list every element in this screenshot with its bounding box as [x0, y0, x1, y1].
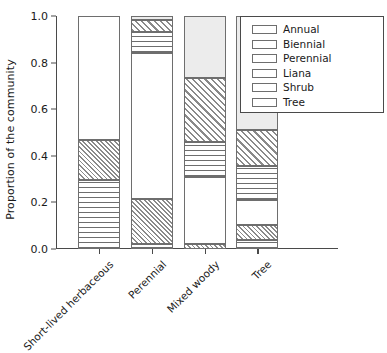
legend-item-tree[interactable]: Tree	[252, 97, 305, 108]
y-tick-label: 1.0	[31, 10, 52, 23]
segment-shrub	[236, 130, 278, 166]
x-tick-mark	[257, 249, 258, 254]
legend-label-liana: Liana	[283, 68, 311, 79]
legend-label-biennial: Biennial	[283, 39, 325, 50]
legend-swatch-annual	[252, 25, 277, 34]
stacked-bar-chart: Proportion of the community 0.00.20.40.6…	[0, 0, 387, 353]
x-tick-mark	[152, 249, 153, 254]
y-tick-0.4: 0.4	[31, 149, 57, 162]
legend-item-annual[interactable]: Annual	[252, 24, 320, 35]
bar-perennial	[131, 16, 173, 249]
legend-item-perennial[interactable]: Perennial	[252, 53, 332, 64]
legend-item-liana[interactable]: Liana	[252, 68, 311, 79]
segment-annual	[236, 240, 278, 249]
segment-shrub	[131, 20, 173, 33]
bar-short-lived-herbaceous	[78, 16, 120, 249]
legend-label-tree: Tree	[283, 97, 305, 108]
legend-label-annual: Annual	[283, 24, 320, 35]
y-axis-title: Proportion of the community	[4, 34, 17, 244]
legend-swatch-perennial	[252, 54, 277, 63]
segment-perennial	[236, 200, 278, 224]
legend-swatch-tree	[252, 98, 277, 107]
legend-item-shrub[interactable]: Shrub	[252, 82, 314, 93]
y-tick-label: 0.8	[31, 56, 52, 69]
segment-perennial	[131, 53, 173, 199]
y-tick-label: 0.4	[31, 149, 52, 162]
y-tick-0.6: 0.6	[31, 103, 57, 116]
y-tick-label: 0.2	[31, 196, 52, 209]
y-tick-0.0: 0.0	[31, 243, 57, 256]
segment-perennial	[184, 177, 226, 245]
legend-label-perennial: Perennial	[283, 53, 332, 64]
y-tick-label: 0.0	[31, 243, 52, 256]
legend-swatch-liana	[252, 69, 277, 78]
segment-perennial	[78, 16, 120, 139]
x-axis-label-tree: Tree	[250, 258, 274, 282]
legend-swatch-shrub	[252, 83, 277, 92]
bar-mixed-woody	[184, 16, 226, 249]
y-tick-0.2: 0.2	[31, 196, 57, 209]
segment-tree	[131, 16, 173, 19]
segment-biennial	[131, 199, 173, 244]
x-tick-mark	[99, 249, 100, 254]
y-tick-0.8: 0.8	[31, 56, 57, 69]
x-axis-label-short-lived-herbaceous: Short-lived herbaceous	[21, 258, 116, 353]
segment-shrub	[184, 78, 226, 142]
x-tick-mark	[205, 249, 206, 254]
segment-liana	[131, 32, 173, 53]
segment-biennial	[236, 225, 278, 240]
y-tick-label: 0.6	[31, 103, 52, 116]
segment-tree	[184, 16, 226, 78]
segment-annual	[78, 180, 120, 249]
segment-liana	[184, 142, 226, 177]
legend-swatch-biennial	[252, 40, 277, 49]
y-tick-1.0: 1.0	[31, 10, 57, 23]
x-axis-label-mixed-woody: Mixed woody	[164, 258, 221, 315]
legend-label-shrub: Shrub	[283, 82, 314, 93]
x-axis-label-perennial: Perennial	[126, 258, 169, 301]
legend-item-biennial[interactable]: Biennial	[252, 39, 325, 50]
segment-liana	[236, 166, 278, 200]
segment-biennial	[78, 140, 120, 181]
